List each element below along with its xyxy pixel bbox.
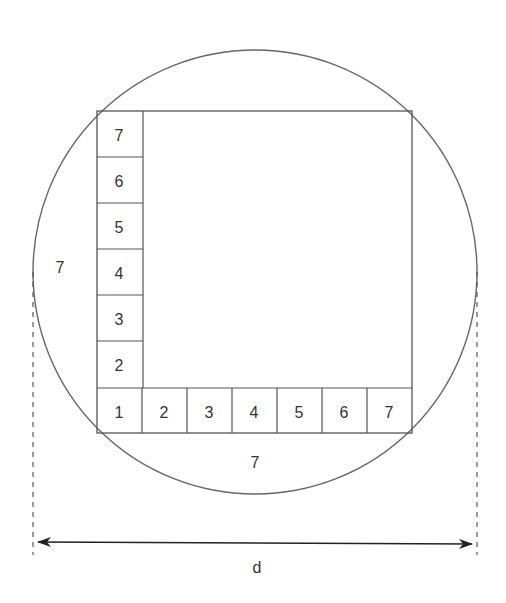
column-label: 5 xyxy=(115,219,124,236)
diameter-label: d xyxy=(253,559,262,576)
row-label: 5 xyxy=(295,404,304,421)
row-label: 1 xyxy=(115,404,124,421)
column-label: 3 xyxy=(115,311,124,328)
row-label: 4 xyxy=(250,404,259,421)
column-label: 6 xyxy=(115,173,124,190)
row-label: 3 xyxy=(205,404,214,421)
vertical-column xyxy=(97,111,143,388)
column-label: 2 xyxy=(115,357,124,374)
column-label: 4 xyxy=(115,265,124,282)
row-label: 7 xyxy=(385,404,394,421)
circumscribed-circle xyxy=(33,50,477,494)
diameter-arrow xyxy=(38,542,472,544)
bottom-side-label: 7 xyxy=(251,454,260,471)
outer-square xyxy=(97,111,412,433)
column-label: 7 xyxy=(115,127,124,144)
row-label: 2 xyxy=(160,404,169,421)
circle-square-diagram: 7 6 5 4 3 2 1 2 3 4 5 6 7 7 7 d xyxy=(0,0,506,603)
left-side-label: 7 xyxy=(56,259,65,276)
row-label: 6 xyxy=(340,404,349,421)
